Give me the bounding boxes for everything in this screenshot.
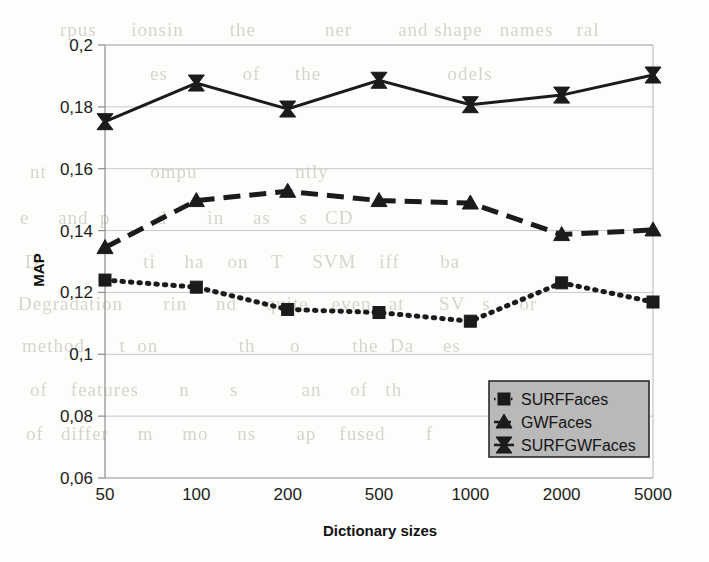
y-tick-label: 0,08 xyxy=(60,407,93,426)
series-surfgwfaces xyxy=(97,67,661,130)
data-point-square xyxy=(498,393,510,405)
y-axis-tick-labels-group: 0,20,180,160,140,120,10,080,06 xyxy=(60,36,93,488)
data-point-bowtie xyxy=(280,101,296,117)
data-point-square xyxy=(99,274,111,286)
map-vs-dictionary-size-line-chart: 0,20,180,160,140,120,10,080,06 501002005… xyxy=(0,0,709,562)
y-tick-label: 0,2 xyxy=(69,36,93,55)
x-tick-label: 100 xyxy=(182,485,210,504)
data-point-square xyxy=(556,277,568,289)
data-point-square xyxy=(190,281,202,293)
x-tick-label: 200 xyxy=(273,485,301,504)
x-tick-label: 5000 xyxy=(634,485,672,504)
y-tick-label: 0,14 xyxy=(60,222,93,241)
data-point-bowtie xyxy=(97,114,113,130)
chart-svg: 0,20,180,160,140,120,10,080,06 501002005… xyxy=(0,0,709,562)
x-axis-tick-labels-group: 50100200500100020005000 xyxy=(96,485,672,504)
x-axis-title: Dictionary sizes xyxy=(323,522,437,539)
data-point-square xyxy=(464,315,476,327)
x-tick-label: 1000 xyxy=(451,485,489,504)
chart-legend: SURFFacesGWFacesSURFGWFaces xyxy=(489,381,649,457)
legend-label: SURFFaces xyxy=(521,391,608,408)
data-point-square xyxy=(282,303,294,315)
legend-label: GWFaces xyxy=(521,414,592,431)
legend-label: SURFGWFaces xyxy=(521,437,636,454)
data-point-square xyxy=(647,296,659,308)
y-tick-label: 0,06 xyxy=(60,469,93,488)
y-tick-label: 0,18 xyxy=(60,98,93,117)
x-tick-label: 50 xyxy=(96,485,115,504)
y-tick-label: 0,16 xyxy=(60,160,93,179)
y-tick-label: 0,1 xyxy=(69,345,93,364)
data-series-group xyxy=(97,67,661,327)
data-point-bowtie xyxy=(188,75,204,91)
y-axis-title: MAP xyxy=(30,253,47,286)
x-tick-label: 2000 xyxy=(543,485,581,504)
y-tick-label: 0,12 xyxy=(60,283,93,302)
x-tick-label: 500 xyxy=(365,485,393,504)
series-surffaces xyxy=(99,274,659,327)
series-gwfaces xyxy=(97,183,661,253)
data-point-square xyxy=(373,307,385,319)
